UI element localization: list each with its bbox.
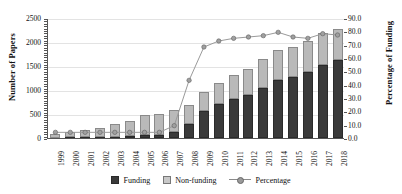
x-axis-tick: 2013	[265, 151, 274, 166]
x-axis-tick-labels: 1999200020012002200320042005200620072008…	[47, 142, 344, 172]
y-axis-right-tick: 20.0	[348, 107, 382, 116]
y-axis-left-tick: 2000	[7, 38, 41, 47]
percentage-data-point	[113, 130, 117, 134]
y-axis-right-tick: 10.0	[348, 121, 382, 130]
x-axis-tick: 2016	[310, 151, 319, 166]
x-axis-tick: 2006	[161, 151, 170, 166]
percentage-data-point	[246, 35, 250, 39]
percentage-data-point	[261, 33, 265, 37]
x-axis-tick: 2018	[340, 151, 349, 166]
x-axis-tick: 2014	[280, 151, 289, 166]
percentage-data-point	[291, 35, 295, 39]
legend-item-funding: Funding	[111, 176, 150, 185]
y-axis-right-tick: 30.0	[348, 94, 382, 103]
x-axis-tick: 2011	[236, 151, 245, 166]
y-axis-left-tick-labels: 05001000150020002500	[7, 19, 41, 139]
chart-legend: Funding Non-funding Percentage	[0, 172, 402, 188]
percentage-line-path	[55, 32, 337, 132]
percentage-data-point	[53, 130, 57, 134]
y-axis-left-tick: 2500	[7, 14, 41, 23]
x-axis-tick: 2004	[132, 151, 141, 166]
x-axis-tick: 2001	[87, 151, 96, 166]
y-axis-right-tick: 80.0	[348, 27, 382, 36]
y-axis-right-tick: 0.0	[348, 134, 382, 143]
non-funding-swatch-icon	[163, 176, 171, 184]
y-axis-right-tick: 70.0	[348, 41, 382, 50]
legend-label-non-funding: Non-funding	[175, 176, 216, 185]
y-axis-right-tick-mark	[344, 139, 347, 140]
percentage-line-series	[48, 19, 345, 139]
percentage-data-point	[83, 130, 87, 134]
percentage-data-point	[157, 130, 161, 134]
y-axis-left-tick: 1000	[7, 86, 41, 95]
percentage-line-marker-icon	[229, 177, 251, 183]
percentage-data-point	[306, 36, 310, 40]
x-axis-tick: 2005	[147, 151, 156, 166]
y-axis-right-tick: 90.0	[348, 14, 382, 23]
y-axis-right-tick-labels: 0.010.020.030.040.050.060.070.080.090.0	[348, 19, 382, 139]
x-axis-tick: 2015	[295, 151, 304, 166]
y-axis-left-tick: 500	[7, 110, 41, 119]
x-axis-tick: 2007	[176, 151, 185, 166]
x-axis-tick: 2003	[117, 151, 126, 166]
y-axis-right-tick: 40.0	[348, 81, 382, 90]
percentage-data-point	[276, 30, 280, 34]
x-axis-tick: 2009	[206, 151, 215, 166]
y-axis-left-tick: 0	[7, 134, 41, 143]
legend-label-percentage: Percentage	[255, 176, 290, 185]
legend-item-percentage: Percentage	[229, 176, 290, 185]
y-axis-right-tick: 50.0	[348, 67, 382, 76]
percentage-data-point	[335, 33, 339, 37]
legend-label-funding: Funding	[123, 176, 150, 185]
percentage-data-point	[98, 130, 102, 134]
percentage-data-point	[172, 123, 176, 127]
percentage-data-point	[127, 130, 131, 134]
y-axis-left-minor-tick	[44, 139, 47, 140]
percentage-data-point	[68, 130, 72, 134]
y-axis-left-tick: 1500	[7, 62, 41, 71]
x-axis-tick: 2002	[102, 151, 111, 166]
x-axis-tick: 2010	[221, 151, 230, 166]
chart-container: Number of Papers Percentage of Funding 0…	[0, 0, 402, 194]
funding-swatch-icon	[111, 176, 119, 184]
x-axis-tick: 2017	[325, 151, 334, 166]
percentage-data-point	[142, 130, 146, 134]
x-axis-tick: 2012	[250, 151, 259, 166]
percentage-data-point	[187, 78, 191, 82]
legend-item-non-funding: Non-funding	[163, 176, 216, 185]
x-axis-tick: 2000	[72, 151, 81, 166]
percentage-data-point	[202, 45, 206, 49]
x-axis-tick: 2008	[191, 151, 200, 166]
plot-area	[47, 19, 344, 139]
percentage-data-point	[231, 36, 235, 40]
y-axis-right-tick: 60.0	[348, 54, 382, 63]
percentage-data-point	[217, 39, 221, 43]
percentage-data-point	[321, 31, 325, 35]
x-axis-tick: 1999	[57, 151, 66, 166]
y-axis-right-title: Percentage of Funding	[384, 18, 394, 108]
